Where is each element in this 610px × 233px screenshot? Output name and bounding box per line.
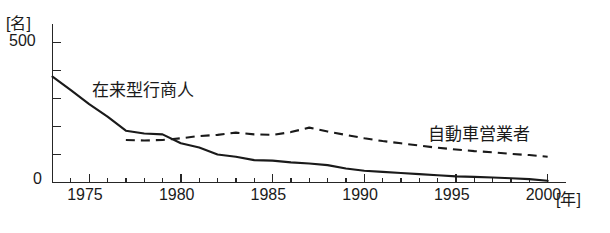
y-axis-unit-label: [名]	[6, 10, 31, 34]
chart-container: [名] 500 0 [年] 在来型行商人 自動車営業者 197519801985…	[0, 0, 610, 233]
series-label-zairai-gyoushounin: 在来型行商人	[92, 76, 194, 101]
x-axis-tick-label-1975: 1975	[67, 186, 103, 204]
y-axis-ticks	[53, 43, 61, 155]
x-axis-ticks	[53, 174, 548, 183]
x-axis-tick-label-1990: 1990	[342, 186, 378, 204]
x-axis-tick-label-1985: 1985	[251, 186, 287, 204]
x-axis-tick-label-2000: 2000	[526, 186, 562, 204]
x-axis-tick-label-1980: 1980	[159, 186, 195, 204]
y-axis-tick-label-500: 500	[9, 32, 36, 50]
series-label-jidousha-eigyousha: 自動車営業者	[428, 120, 530, 145]
x-axis-tick-label-1995: 1995	[434, 186, 470, 204]
y-axis-tick-label-0: 0	[33, 170, 42, 188]
axes-group	[53, 24, 567, 183]
